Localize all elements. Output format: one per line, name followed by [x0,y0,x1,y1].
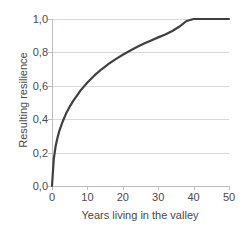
resilience-curve [52,19,229,186]
x-axis-title: Years living in the valley [40,209,240,221]
curve-layer [0,0,246,234]
resilience-line-chart: 1,0 0,8 0,6 0,4 0,2 0,0 0 10 20 30 40 50… [0,0,246,234]
y-axis-title: Resulting resilience [17,15,29,185]
